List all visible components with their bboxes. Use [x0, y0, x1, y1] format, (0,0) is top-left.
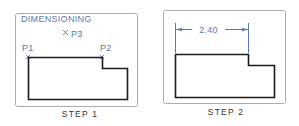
- step1-part-outline: [29, 58, 128, 100]
- step1-caption: STEP 1: [62, 109, 98, 119]
- step1-title: DIMENSIONING: [21, 14, 92, 24]
- p3-x-mark-icon: [63, 30, 68, 35]
- arrowhead-left-icon: [176, 28, 182, 31]
- arrowhead-right-icon: [242, 28, 248, 31]
- p3-label: P3: [71, 29, 83, 39]
- p2-label: P2: [100, 43, 112, 53]
- p1-label: P1: [22, 43, 34, 53]
- step1-frame: [16, 14, 138, 107]
- step2-panel: 2.40 STEP 2: [164, 11, 286, 118]
- step2-caption: STEP 2: [208, 107, 244, 117]
- step1-panel: DIMENSIONING P3 P1 P2 STEP 1: [16, 14, 138, 120]
- step2-part-outline: [176, 55, 275, 98]
- step2-frame: [164, 11, 286, 104]
- dimensioning-steps-diagram: DIMENSIONING P3 P1 P2 STEP 1: [0, 0, 299, 126]
- dimension-value: 2.40: [199, 25, 218, 35]
